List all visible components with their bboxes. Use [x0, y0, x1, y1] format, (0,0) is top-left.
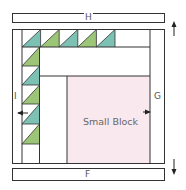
label-i: I: [13, 92, 18, 101]
label-g: G: [153, 92, 162, 101]
arrow-down-icon: [172, 159, 177, 175]
small-block-label: Small Block: [83, 116, 138, 127]
label-h: H: [84, 13, 93, 22]
arrow-up-icon: [172, 21, 177, 36]
label-f: F: [84, 170, 91, 179]
